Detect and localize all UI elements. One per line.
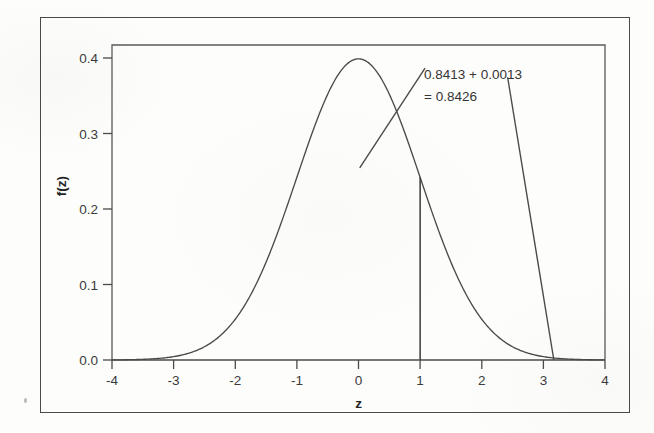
- y-tick-label: 0.1: [79, 278, 98, 293]
- y-axis-ticks: [103, 58, 112, 360]
- x-tick-label: 4: [601, 373, 609, 388]
- normal-density-curve: [112, 59, 605, 360]
- figure-screenshot: -4 -3 -2 -1 0 1 2 3 4 z 0.0 0.1 0.2 0.3 …: [0, 0, 654, 433]
- x-tick-label: 3: [540, 373, 548, 388]
- y-tick-label: 0.0: [79, 353, 98, 368]
- annotation-leader-line-right: [508, 77, 554, 360]
- annotation-line-1: 0.8413 + 0.0013: [424, 67, 522, 82]
- y-axis-title: f(z): [54, 176, 69, 196]
- x-axis-tick-labels: -4 -3 -2 -1 0 1 2 3 4: [106, 373, 609, 388]
- y-axis-tick-labels: 0.0 0.1 0.2 0.3 0.4: [79, 51, 98, 368]
- annotation-line-2: = 0.8426: [424, 89, 477, 104]
- x-tick-label: 1: [416, 373, 424, 388]
- x-tick-label: -4: [106, 373, 118, 388]
- x-tick-label: -3: [168, 373, 180, 388]
- annotation-leader-line-left: [360, 68, 425, 168]
- plot-frame: [112, 45, 605, 360]
- x-tick-label: 2: [478, 373, 486, 388]
- x-tick-label: -2: [229, 373, 241, 388]
- y-tick-label: 0.3: [79, 127, 98, 142]
- y-tick-label: 0.4: [79, 51, 98, 66]
- y-tick-label: 0.2: [79, 202, 98, 217]
- x-tick-label: -1: [291, 373, 303, 388]
- x-axis-title: z: [355, 396, 362, 411]
- x-tick-label: 0: [355, 373, 363, 388]
- normal-distribution-chart: -4 -3 -2 -1 0 1 2 3 4 z 0.0 0.1 0.2 0.3 …: [0, 0, 654, 433]
- x-axis-ticks: [112, 360, 605, 369]
